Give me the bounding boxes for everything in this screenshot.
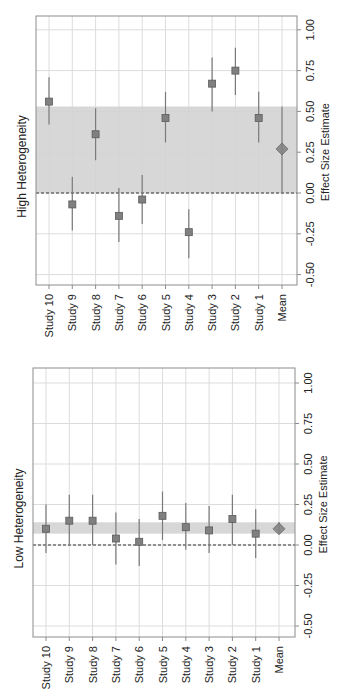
study-square-marker xyxy=(159,512,166,519)
value-tick-label: 0.75 xyxy=(302,413,314,434)
category-label: Study 4 xyxy=(183,294,195,331)
study-square-marker xyxy=(229,516,236,523)
high-heterogeneity-panel: -0.50-0.250.000.250.500.751.00Effect Siz… xyxy=(15,16,331,337)
value-tick-label: 1.00 xyxy=(302,372,314,393)
value-axis-title: Effect Size Estimate xyxy=(319,103,331,201)
study-square-marker xyxy=(43,525,50,532)
category-label: Study 4 xyxy=(180,646,192,683)
value-tick-label: -0.50 xyxy=(304,262,316,287)
category-label: Study 6 xyxy=(136,294,148,331)
category-label: Study 3 xyxy=(203,646,215,683)
study-square-marker xyxy=(92,131,99,138)
category-label: Study 2 xyxy=(229,294,241,331)
category-label: Study 10 xyxy=(40,646,52,689)
study-square-marker xyxy=(255,114,262,121)
value-tick-label: 0.50 xyxy=(304,101,316,122)
category-label: Study 1 xyxy=(253,294,265,331)
panel-title: High Heterogeneity xyxy=(15,115,29,218)
study-square-marker xyxy=(46,98,53,105)
value-axis-title: Effect Size Estimate xyxy=(317,455,329,553)
category-label: Study 9 xyxy=(66,294,78,331)
value-tick-label: -0.25 xyxy=(304,221,316,246)
category-label: Study 5 xyxy=(157,646,169,683)
panel-title: Low Heterogeneity xyxy=(12,468,26,568)
study-square-marker xyxy=(69,201,76,208)
forest-plot-figure: -0.50-0.250.000.250.500.751.00Effect Siz… xyxy=(0,0,344,700)
value-tick-label: 0.25 xyxy=(302,494,314,515)
category-label: Study 7 xyxy=(110,646,122,683)
category-label: Study 5 xyxy=(160,294,172,331)
study-square-marker xyxy=(115,212,122,219)
study-square-marker xyxy=(182,524,189,531)
study-square-marker xyxy=(112,535,119,542)
value-tick-label: 1.00 xyxy=(304,19,316,40)
study-square-marker xyxy=(206,527,213,534)
category-label: Study 7 xyxy=(113,294,125,331)
category-label: Study 10 xyxy=(43,294,55,337)
value-tick-label: 0.75 xyxy=(304,60,316,81)
study-square-marker xyxy=(89,517,96,524)
study-square-marker xyxy=(185,229,192,236)
value-tick-label: 0.25 xyxy=(304,141,316,162)
study-square-marker xyxy=(139,196,146,203)
value-tick-label: 0.50 xyxy=(302,453,314,474)
category-label: Study 6 xyxy=(133,646,145,683)
study-square-marker xyxy=(232,67,239,74)
value-tick-label: 0.00 xyxy=(302,534,314,555)
category-label: Study 9 xyxy=(63,646,75,683)
category-label: Study 8 xyxy=(87,646,99,683)
category-label: Mean xyxy=(276,294,288,322)
value-tick-label: 0.00 xyxy=(304,182,316,203)
category-label: Study 1 xyxy=(250,646,262,683)
study-square-marker xyxy=(66,517,73,524)
value-tick-label: -0.50 xyxy=(302,613,314,638)
low-heterogeneity-panel: -0.50-0.250.000.250.500.751.00Effect Siz… xyxy=(12,368,329,689)
value-tick-label: -0.25 xyxy=(302,573,314,598)
study-square-marker xyxy=(209,80,216,87)
study-square-marker xyxy=(252,530,259,537)
category-label: Study 2 xyxy=(226,646,238,683)
study-square-marker xyxy=(162,114,169,121)
category-label: Study 3 xyxy=(206,294,218,331)
category-label: Study 8 xyxy=(90,294,102,331)
study-square-marker xyxy=(136,538,143,545)
category-label: Mean xyxy=(273,646,285,674)
